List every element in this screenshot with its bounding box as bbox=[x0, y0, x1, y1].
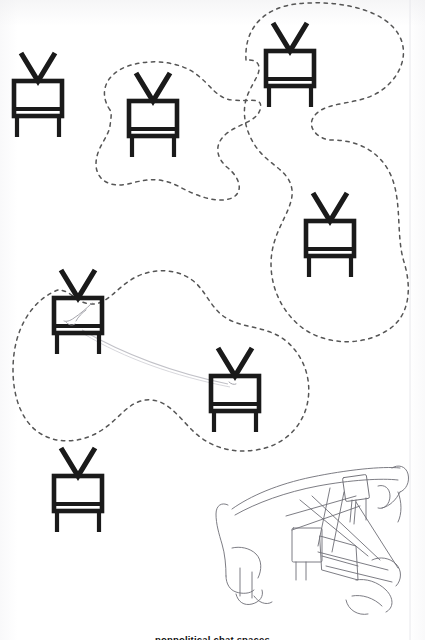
television-top-right bbox=[266, 23, 314, 107]
television-lower-middle bbox=[211, 348, 259, 432]
television-upper-middle bbox=[129, 73, 177, 157]
pencil-sketch-figures-and-furniture bbox=[216, 466, 409, 614]
television-icons bbox=[14, 23, 354, 532]
screen-doodles bbox=[64, 303, 236, 384]
screen-doodle-middle-left bbox=[64, 303, 92, 321]
screen-doodle-lower-middle bbox=[229, 382, 236, 384]
dashed-region-upper-right bbox=[244, 3, 408, 342]
diagram-canvas bbox=[0, 0, 425, 640]
television-middle-right bbox=[306, 193, 354, 277]
diagram-page: nonpolitical chat spaces bbox=[0, 0, 425, 640]
television-bottom-left bbox=[54, 448, 102, 532]
television-middle-left bbox=[54, 270, 102, 354]
television-top-left bbox=[14, 53, 62, 137]
faint-pencil-link bbox=[82, 330, 228, 384]
page-caption: nonpolitical chat spaces bbox=[0, 634, 425, 640]
